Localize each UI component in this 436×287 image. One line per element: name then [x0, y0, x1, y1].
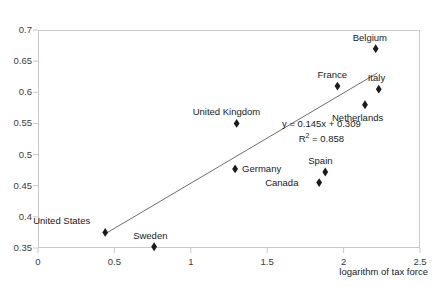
- y-tick-label: 0.4: [2, 211, 32, 222]
- data-point-label: Spain: [308, 155, 332, 166]
- data-point-label: United States: [33, 215, 90, 226]
- y-tick-label: 0.65: [2, 55, 32, 66]
- y-tick-label: 0.7: [2, 24, 32, 35]
- data-point-label: Belgium: [353, 32, 387, 43]
- data-point-label: France: [317, 69, 347, 80]
- y-tick-label: 0.45: [2, 180, 32, 191]
- tick-marks-group: [33, 30, 420, 253]
- y-tick-label: 0.35: [2, 242, 32, 253]
- r-squared-value: R2 = 0.858: [282, 130, 361, 145]
- data-point-label: Sweden: [133, 230, 167, 241]
- data-point-label: United Kingdom: [193, 106, 261, 117]
- chart-graphics-overlay: [0, 0, 436, 287]
- data-point-label: Canada: [265, 177, 298, 188]
- regression-equation: y = 0.145x + 0.309: [282, 118, 361, 130]
- trendline-group: [105, 73, 377, 234]
- x-tick-label: 0.5: [99, 256, 129, 267]
- y-tick-label: 0.6: [2, 86, 32, 97]
- r-squared-prefix: R: [299, 133, 306, 144]
- x-tick-label: 0: [23, 256, 53, 267]
- regression-annotation: y = 0.145x + 0.309 R2 = 0.858: [282, 118, 361, 145]
- r-squared-suffix: = 0.858: [309, 133, 344, 144]
- scatter-chart-figure: 0.350.40.450.50.550.60.650.7 00.511.522.…: [0, 0, 436, 287]
- x-tick-label: 1.5: [252, 256, 282, 267]
- x-axis-title: logarithm of tax force: [339, 266, 428, 277]
- y-tick-label: 0.55: [2, 117, 32, 128]
- data-point-label: Germany: [242, 163, 281, 174]
- data-point-label: Italy: [368, 72, 385, 83]
- y-tick-label: 0.5: [2, 149, 32, 160]
- x-tick-label: 1: [176, 256, 206, 267]
